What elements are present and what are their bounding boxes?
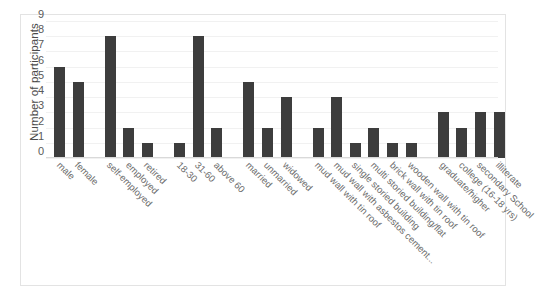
- y-axis-tick-label: 1: [22, 130, 44, 141]
- bar: [174, 143, 185, 158]
- bar: [54, 67, 65, 158]
- y-axis-tick-labels: 0123456789: [22, 14, 44, 158]
- y-axis-tick-label: 7: [22, 39, 44, 50]
- plot-area: [46, 21, 498, 158]
- bar: [475, 112, 486, 158]
- y-axis-tick-label: 9: [22, 9, 44, 20]
- bar: [123, 128, 134, 158]
- bar: [456, 128, 467, 158]
- bar: [494, 112, 505, 158]
- bar: [387, 143, 398, 158]
- bar: [262, 128, 273, 158]
- bar: [438, 112, 449, 158]
- gridline: [46, 158, 498, 159]
- x-axis-tick-label: male: [55, 160, 76, 181]
- bar: [281, 97, 292, 158]
- y-axis-tick-label: 3: [22, 100, 44, 111]
- bar: [368, 128, 379, 158]
- bar: [211, 128, 222, 158]
- bar: [105, 36, 116, 158]
- y-axis-tick-label: 6: [22, 54, 44, 65]
- bar: [331, 97, 342, 158]
- bars-layer: [46, 21, 498, 158]
- x-axis-line: [46, 157, 498, 158]
- x-axis-tick-labels: malefemaleself-employedemployedretired18…: [46, 160, 506, 290]
- y-axis-tick-label: 5: [22, 69, 44, 80]
- y-axis-tick-label: 4: [22, 85, 44, 96]
- bar: [193, 36, 204, 158]
- bar: [243, 82, 254, 158]
- y-axis-tick-label: 2: [22, 115, 44, 126]
- bar: [142, 143, 153, 158]
- y-axis-tick-label: 8: [22, 24, 44, 35]
- bar: [313, 128, 324, 158]
- bar: [406, 143, 417, 158]
- bar: [73, 82, 84, 158]
- bar: [350, 143, 361, 158]
- y-axis-tick-label: 0: [22, 146, 44, 157]
